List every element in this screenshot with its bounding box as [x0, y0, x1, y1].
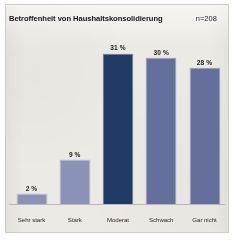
- category-label: Moderat: [107, 216, 129, 223]
- chart-figure: Betroffenheit von Haushaltskonsolidierun…: [0, 0, 235, 240]
- bar-schwach[interactable]: [146, 58, 176, 204]
- axis-baseline: [9, 204, 225, 205]
- bar-slot-gar-nicht: 28 %: [188, 40, 221, 204]
- bar-value-label: 28 %: [197, 59, 212, 66]
- bar-slot-schwach: 30 %: [145, 40, 178, 204]
- category-axis: Sehr stark Stark Moderat Schwach Gar nic…: [9, 208, 225, 222]
- bar-moderat[interactable]: [103, 54, 133, 205]
- category-slot-sehr-stark: Sehr stark: [15, 208, 48, 222]
- bar-slot-sehr-stark: 2 %: [15, 40, 48, 204]
- category-label: Sehr stark: [18, 216, 45, 223]
- category-label: Schwach: [149, 216, 173, 223]
- bar-slot-moderat: 31 %: [102, 40, 135, 204]
- chart-header: Betroffenheit von Haushaltskonsolidierun…: [9, 14, 217, 28]
- bar-value-label: 9 %: [69, 151, 81, 158]
- category-label: Gar nicht: [192, 216, 216, 223]
- chart-title: Betroffenheit von Haushaltskonsolidierun…: [9, 14, 163, 24]
- bar-sehr-stark[interactable]: [17, 194, 47, 204]
- bar-gar-nicht[interactable]: [190, 68, 220, 204]
- bar-value-label: 31 %: [110, 44, 125, 51]
- category-label: Stark: [68, 216, 82, 223]
- bar-value-label: 2 %: [26, 185, 38, 192]
- category-slot-schwach: Schwach: [145, 208, 178, 222]
- bar-group: 2 % 9 % 31 % 30 % 28 %: [9, 40, 225, 204]
- category-slot-gar-nicht: Gar nicht: [188, 208, 221, 222]
- category-slot-stark: Stark: [58, 208, 91, 222]
- bar-value-label: 30 %: [154, 49, 169, 56]
- plot-area: 2 % 9 % 31 % 30 % 28 %: [9, 40, 225, 205]
- category-slot-moderat: Moderat: [102, 208, 135, 222]
- sample-size-annotation: n=208: [196, 14, 217, 24]
- bar-slot-stark: 9 %: [58, 40, 91, 204]
- bar-stark[interactable]: [60, 160, 90, 204]
